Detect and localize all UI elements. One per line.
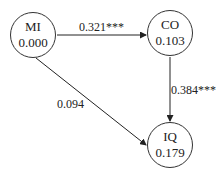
node-iq-value: 0.179 [155,145,184,161]
node-mi-name: MI [25,19,41,35]
node-mi-value: 0.000 [18,35,47,51]
edge-co-iq-label: 0.384*** [171,83,216,98]
node-co-value: 0.103 [155,33,184,49]
node-iq: IQ 0.179 [147,122,193,168]
node-iq-name: IQ [163,129,177,145]
node-mi: MI 0.000 [10,12,56,58]
node-co: CO 0.103 [147,10,193,56]
edge-mi-iq-label: 0.094 [57,97,84,112]
edge-mi-iq [36,58,146,145]
node-co-name: CO [161,17,179,33]
edge-mi-co-label: 0.321*** [79,20,124,35]
